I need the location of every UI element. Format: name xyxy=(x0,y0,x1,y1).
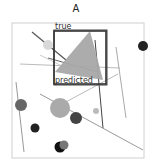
image-frame xyxy=(12,23,144,158)
circle-shape xyxy=(43,40,53,50)
circle-shape xyxy=(15,99,27,111)
circle-shape xyxy=(31,124,40,133)
circle-shape xyxy=(50,98,70,118)
circle-shape xyxy=(138,41,148,51)
circle-shape xyxy=(60,141,69,150)
predicted-box-label: predicted xyxy=(55,76,93,85)
circle-shape xyxy=(70,112,82,124)
circle-shape xyxy=(93,108,99,114)
scene-canvas: true predicted xyxy=(0,0,152,164)
true-box-label: true xyxy=(55,22,71,31)
